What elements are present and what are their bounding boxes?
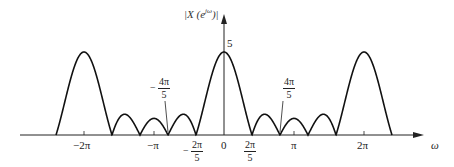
tick-label-minus-2pi: −2π xyxy=(73,140,90,151)
dtft-magnitude-chart: |X (ejω)| 5 ω −2π −π 0 π 2π − 2π 5 2π 5 … xyxy=(0,0,454,167)
x-axis-label: ω xyxy=(431,140,439,151)
y-label-close: )| xyxy=(212,8,219,20)
annotation-leader-left xyxy=(165,101,168,132)
tick-label-2pi-over-5: 2π 5 xyxy=(244,140,256,163)
fraction-numerator: 2π xyxy=(244,140,256,152)
y-axis-label: |X (ejω)| xyxy=(184,7,219,20)
fraction-denominator: 5 xyxy=(244,152,256,163)
axes xyxy=(20,14,424,138)
tick-label-minus-2pi-over-5: − 2π 5 xyxy=(191,140,203,163)
annotation-4pi-over-5: 4π 5 xyxy=(283,77,295,100)
fraction-numerator: 4π xyxy=(158,77,170,89)
peak-value-label: 5 xyxy=(227,38,233,49)
tick-label-zero: 0 xyxy=(221,140,227,151)
fraction-sign: − xyxy=(183,146,189,156)
plot-area xyxy=(0,0,454,167)
fraction-numerator: 2π xyxy=(191,140,203,152)
fraction-denominator: 5 xyxy=(283,89,295,100)
fraction-numerator: 4π xyxy=(283,77,295,89)
tick-label-pi: π xyxy=(291,140,297,151)
annotation-leader-right xyxy=(280,101,283,132)
tick-label-2pi: 2π xyxy=(357,140,368,151)
annotation-minus-4pi-over-5: − 4π 5 xyxy=(158,77,170,100)
fraction-sign: − xyxy=(150,83,156,93)
fraction-denominator: 5 xyxy=(191,152,203,163)
fraction-denominator: 5 xyxy=(158,89,170,100)
y-label-superscript: jω xyxy=(205,7,212,15)
y-label-text: |X (e xyxy=(184,8,205,20)
tick-label-minus-pi: −π xyxy=(147,140,159,151)
